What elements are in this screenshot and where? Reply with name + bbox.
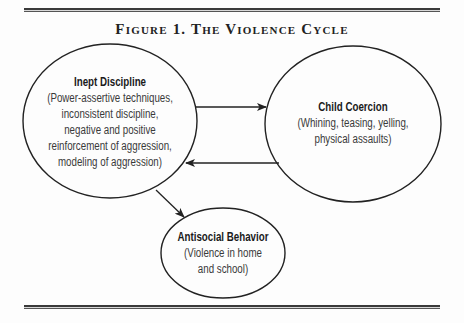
- inept-discipline-line: (Power-assertive techniques,: [32, 90, 188, 106]
- child-coercion-line: physical assaults): [275, 131, 431, 147]
- child-coercion-line: (Whining, teasing, yelling,: [275, 115, 431, 131]
- inept-discipline-line: inconsistent discipline,: [32, 106, 188, 122]
- antisocial-behavior-line: and school): [145, 261, 301, 277]
- inept-discipline-line: modeling of aggression): [32, 154, 188, 170]
- bottom-double-rule: [24, 305, 440, 309]
- arrow-discipline-to-antisocial: [156, 190, 184, 217]
- antisocial-behavior-heading: Antisocial Behavior: [145, 229, 301, 245]
- inept-discipline-heading: Inept Discipline: [32, 74, 188, 90]
- child-coercion-heading: Child Coercion: [275, 99, 431, 115]
- child-coercion-node: Child Coercion (Whining, teasing, yellin…: [275, 99, 431, 147]
- figure-canvas: Figure 1. The Violence Cycle Inept Disci…: [0, 0, 464, 323]
- inept-discipline-line: negative and positive: [32, 122, 188, 138]
- inept-discipline-node: Inept Discipline (Power-assertive techni…: [32, 74, 188, 170]
- inept-discipline-line: reinforcement of aggression,: [32, 138, 188, 154]
- antisocial-behavior-line: (Violence in home: [145, 245, 301, 261]
- antisocial-behavior-node: Antisocial Behavior (Violence in home an…: [145, 229, 301, 277]
